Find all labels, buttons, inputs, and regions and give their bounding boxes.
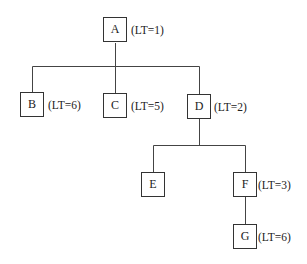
node-e-label: E: [149, 177, 156, 192]
node-e: E: [141, 172, 165, 197]
node-b-lt: (LT=6): [48, 98, 81, 112]
node-f-label: F: [242, 177, 249, 192]
node-d: D: [187, 94, 211, 119]
node-a-lt: (LT=1): [131, 23, 164, 37]
node-d-lt: (LT=2): [214, 100, 247, 114]
node-a-label: A: [111, 22, 120, 37]
node-b: B: [20, 92, 44, 117]
node-g-label: G: [241, 229, 250, 244]
node-d-label: D: [195, 99, 204, 114]
node-g: G: [233, 224, 257, 249]
node-c: C: [103, 93, 127, 118]
node-f: F: [233, 172, 257, 197]
node-a: A: [103, 17, 127, 42]
node-b-label: B: [28, 97, 36, 112]
tree-connectors: [0, 0, 307, 264]
node-g-lt: (LT=6): [258, 230, 291, 244]
node-c-lt: (LT=5): [131, 99, 164, 113]
node-f-lt: (LT=3): [258, 178, 291, 192]
node-c-label: C: [111, 98, 119, 113]
